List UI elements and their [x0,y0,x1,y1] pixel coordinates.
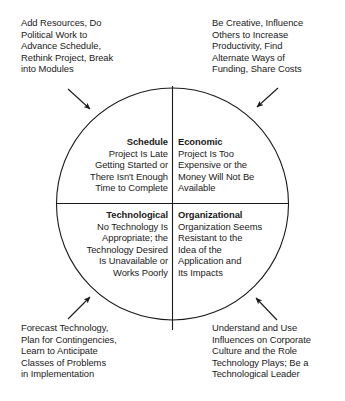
quadrant-economic-body: Project Is Too Expensive or the Money Wi… [178,148,288,194]
annotation-bottom-left: Forecast Technology, Plan for Contingenc… [21,322,181,380]
quadrant-economic: Economic Project Is Too Expensive or the… [178,136,288,194]
quadrant-technological: Technological No Technology Is Appropria… [58,209,168,279]
quadrant-schedule: Schedule Project Is Late Getting Started… [62,136,168,194]
quadrant-technological-heading: Technological [58,209,168,221]
quadrant-organizational-body: Organization Seems Resistant to the Idea… [178,221,290,279]
quadrant-technological-body: No Technology Is Appropriate; the Techno… [58,221,168,279]
quadrant-schedule-body: Project Is Late Getting Started or There… [62,148,168,194]
annotation-bottom-right: Understand and Use Influences on Corpora… [212,322,345,380]
arrow-top-left [68,89,90,109]
quadrant-risk-diagram: Add Resources, Do Political Work to Adva… [0,0,345,401]
annotation-top-right: Be Creative, Influence Others to Increas… [212,17,345,75]
quadrant-organizational: Organizational Organization Seems Resist… [178,209,290,279]
arrow-bottom-right [256,298,277,320]
quadrant-schedule-heading: Schedule [62,136,168,148]
quadrant-organizational-heading: Organizational [178,209,290,221]
arrow-top-right [257,88,278,107]
quadrant-economic-heading: Economic [178,136,288,148]
annotation-top-left: Add Resources, Do Political Work to Adva… [21,17,171,75]
arrow-bottom-left [68,297,90,319]
